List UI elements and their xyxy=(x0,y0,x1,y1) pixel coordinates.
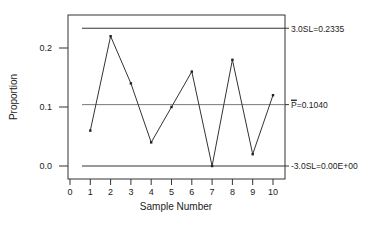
y-tick-label: 0.0 xyxy=(39,161,52,171)
x-tick-label: 4 xyxy=(149,187,154,197)
data-point xyxy=(272,94,274,96)
y-axis: 0.00.10.2 xyxy=(39,43,68,171)
data-point xyxy=(191,70,193,72)
x-tick-label: 1 xyxy=(88,187,93,197)
x-tick-label: 9 xyxy=(250,187,255,197)
x-tick-label: 2 xyxy=(108,187,113,197)
data-point xyxy=(231,59,233,61)
data-point xyxy=(211,165,213,167)
x-tick-label: 5 xyxy=(169,187,174,197)
data-series xyxy=(89,35,274,167)
control-limits xyxy=(82,28,289,166)
x-axis-title: Sample Number xyxy=(140,201,213,212)
proportion-line xyxy=(90,36,273,166)
p-control-chart: 0.00.10.2 012345678910 Sample Number Pro… xyxy=(0,0,375,227)
x-axis: 012345678910 xyxy=(67,179,278,197)
x-tick-label: 6 xyxy=(189,187,194,197)
data-point xyxy=(130,82,132,84)
y-axis-title: Proportion xyxy=(8,74,19,120)
center-value: =0.1040 xyxy=(297,100,328,110)
x-tick-label: 8 xyxy=(230,187,235,197)
x-tick-label: 0 xyxy=(67,187,72,197)
x-tick-label: 3 xyxy=(128,187,133,197)
y-tick-label: 0.2 xyxy=(39,43,52,53)
lcl-label: -3.0SL=0.00E+00 xyxy=(291,161,358,171)
ucl-label: 3.0SL=0.2335 xyxy=(291,24,344,34)
data-point xyxy=(109,35,111,37)
data-point xyxy=(252,153,254,155)
x-tick-label: 7 xyxy=(210,187,215,197)
data-point xyxy=(89,129,91,131)
x-tick-label: 10 xyxy=(268,187,278,197)
center-line-label: P=0.1040 xyxy=(291,100,328,110)
y-tick-label: 0.1 xyxy=(39,102,52,112)
data-point xyxy=(150,141,152,143)
data-point xyxy=(170,106,172,108)
